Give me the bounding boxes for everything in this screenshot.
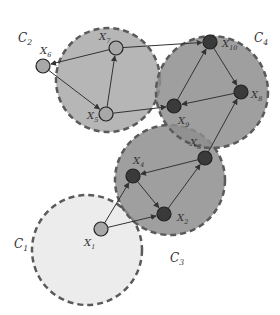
node-x9 (167, 99, 181, 113)
node-x2 (157, 207, 171, 221)
node-x1 (94, 222, 108, 236)
cluster-label-c4: C4 (254, 31, 268, 47)
node-x4 (126, 169, 140, 183)
cluster-label-c3: C3 (170, 251, 184, 267)
cluster-label-c1: C1 (14, 237, 28, 253)
cluster-label-c2: C2 (18, 31, 32, 47)
node-x5 (99, 107, 113, 121)
node-x8 (234, 85, 248, 99)
node-x7 (109, 41, 123, 55)
node-x10 (203, 35, 217, 49)
node-label-x6: X6 (39, 45, 51, 59)
node-x6 (36, 59, 50, 73)
node-x3 (198, 151, 212, 165)
clusters-layer (32, 28, 268, 305)
cluster-graph-diagram: C1C2C3C4X1X2X3X4X5X6X7X8X9X10 (0, 0, 280, 315)
